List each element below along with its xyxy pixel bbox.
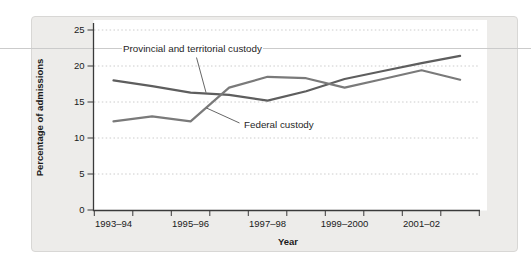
- x-axis-title: Year: [93, 236, 483, 247]
- line-chart: 05101520251993–941995–961997–981999–2000…: [0, 0, 531, 272]
- y-tick-label-15: 15: [74, 96, 85, 107]
- y-tick-label-10: 10: [74, 132, 85, 143]
- x-tick-label-2001-02: 2001–02: [403, 218, 440, 229]
- provincial-series-label: Provincial and territorial custody: [122, 43, 263, 54]
- x-tick-label-1999-2000: 1999–2000: [321, 218, 369, 229]
- y-tick-label-5: 5: [79, 168, 84, 179]
- federal-series-label: Federal custody: [243, 119, 315, 130]
- y-tick-label-20: 20: [74, 60, 85, 71]
- figure-page: 05101520251993–941995–961997–981999–2000…: [0, 0, 531, 272]
- x-tick-label-1993-94: 1993–94: [95, 218, 132, 229]
- y-tick-label-25: 25: [74, 24, 85, 35]
- x-tick-label-1995-96: 1995–96: [172, 218, 209, 229]
- y-axis-title-text: Percentage of admissions: [35, 58, 46, 176]
- y-axis-title: Percentage of admissions: [30, 24, 50, 210]
- y-tick-label-0: 0: [79, 204, 84, 215]
- x-tick-label-1997-98: 1997–98: [249, 218, 286, 229]
